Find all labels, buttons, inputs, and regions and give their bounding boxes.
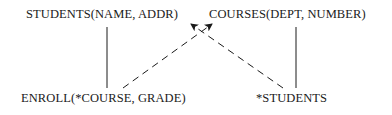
node-enroll: ENROLL(*COURSE, GRADE) [21, 91, 186, 105]
node-star-students: *STUDENTS [256, 91, 327, 105]
edge-star-students-students-dashed [191, 24, 283, 88]
node-students: STUDENTS(NAME, ADDR) [26, 7, 178, 21]
node-courses: COURSES(DEPT, NUMBER) [209, 7, 366, 21]
edge-enroll-courses-dashed [123, 24, 212, 88]
schema-diagram: STUDENTS(NAME, ADDR) COURSES(DEPT, NUMBE… [0, 0, 392, 115]
